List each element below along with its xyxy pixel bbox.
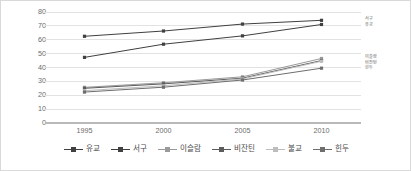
- legend-item-힌두[interactable]: 힌두: [313, 145, 349, 153]
- data-point-marker: [162, 29, 165, 32]
- edge-label-유교: 유교: [365, 23, 373, 28]
- legend-label: 유교: [86, 145, 100, 153]
- data-point-marker: [320, 60, 323, 63]
- y-tick-label: 50: [20, 50, 46, 57]
- plot-area: [45, 12, 361, 123]
- data-point-marker: [162, 43, 165, 46]
- legend-marker-icon: [313, 145, 332, 153]
- legend-label: 불교: [288, 145, 302, 153]
- x-tick-label: 2000: [139, 127, 189, 134]
- y-tick-label: 10: [20, 105, 46, 112]
- series-서구: [83, 23, 323, 59]
- y-tick-label: 30: [20, 77, 46, 84]
- data-point-marker: [320, 67, 323, 70]
- legend-item-유교[interactable]: 유교: [64, 145, 100, 153]
- legend-item-서구[interactable]: 서구: [111, 145, 147, 153]
- line-chart: 01020304050607080 1995200020052010 서구유교이…: [0, 0, 411, 171]
- data-point-marker: [320, 23, 323, 26]
- series-line: [85, 58, 322, 87]
- y-tick-label: 60: [20, 36, 46, 43]
- x-tick-label: 2010: [297, 127, 347, 134]
- data-point-marker: [83, 35, 86, 38]
- x-tick-label: 1995: [60, 127, 110, 134]
- y-tick-label: 70: [20, 22, 46, 29]
- y-tick-label: 0: [20, 119, 46, 126]
- legend-marker-icon: [111, 145, 130, 153]
- series-유교: [83, 19, 323, 38]
- legend-label: 힌두: [335, 145, 349, 153]
- data-point-marker: [83, 90, 86, 93]
- data-point-marker: [162, 86, 165, 89]
- series-layer: [45, 12, 361, 123]
- edge-label-힌두: 힌두: [365, 66, 373, 71]
- legend-label: 서구: [133, 145, 147, 153]
- data-point-marker: [241, 34, 244, 37]
- data-point-marker: [241, 22, 244, 25]
- legend-label: 이슬람: [180, 145, 201, 153]
- series-line: [85, 20, 322, 36]
- series-line: [85, 61, 322, 89]
- legend-marker-icon: [158, 145, 177, 153]
- data-point-marker: [83, 56, 86, 59]
- data-point-marker: [320, 19, 323, 22]
- legend-item-비잔틴[interactable]: 비잔틴: [212, 145, 255, 153]
- y-tick-label: 40: [20, 64, 46, 71]
- legend: 유교서구이슬람비잔틴불교힌두: [1, 145, 411, 153]
- legend-item-불교[interactable]: 불교: [266, 145, 302, 153]
- legend-item-이슬람[interactable]: 이슬람: [158, 145, 201, 153]
- legend-marker-icon: [266, 145, 285, 153]
- legend-label: 비잔틴: [234, 145, 255, 153]
- legend-marker-icon: [64, 145, 83, 153]
- y-tick-label: 80: [20, 8, 46, 15]
- series-line: [85, 24, 322, 57]
- series-불교: [83, 60, 323, 93]
- y-tick-label: 20: [20, 91, 46, 98]
- data-point-marker: [241, 78, 244, 81]
- legend-marker-icon: [212, 145, 231, 153]
- x-tick-label: 2005: [218, 127, 268, 134]
